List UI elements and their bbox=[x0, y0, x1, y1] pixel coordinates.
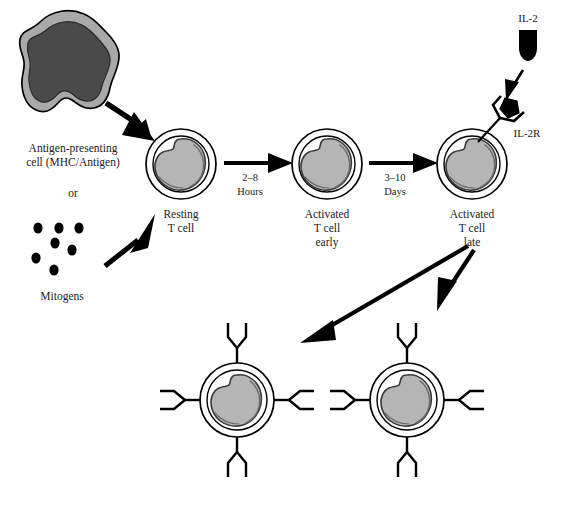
activated-early-label-line2: T cell bbox=[314, 222, 340, 234]
arrow-activated-early-to-late bbox=[369, 153, 438, 173]
apc-label-line1: Antigen-presenting bbox=[29, 142, 118, 155]
daughter-left-receptor-right bbox=[274, 391, 314, 409]
il2-cytokine-icon bbox=[519, 30, 537, 61]
diagram-canvas: Antigen-presenting cell (MHC/Antigen) or… bbox=[0, 0, 569, 512]
il2-bound-ligand bbox=[500, 98, 519, 118]
apc-label-line2: cell (MHC/Antigen) bbox=[26, 156, 120, 169]
arrow-il2-to-il2r bbox=[505, 70, 523, 101]
daughter-left-receptor-bottom bbox=[228, 437, 246, 477]
mitogen-dot bbox=[49, 264, 58, 275]
time-label-1-line1: 2–8 bbox=[242, 172, 258, 183]
mitogen-dot bbox=[67, 244, 76, 255]
resting-tcell-label-line2: T cell bbox=[168, 222, 194, 234]
activated-early-t-cell bbox=[292, 129, 362, 199]
time-label-2-line1: 3–10 bbox=[385, 172, 406, 183]
daughter-right-receptor-bottom bbox=[398, 437, 416, 477]
or-label: or bbox=[68, 187, 78, 199]
activated-early-label-line3: early bbox=[316, 236, 339, 249]
mitogen-dots-group bbox=[31, 222, 83, 275]
time-label-2-line2: Days bbox=[384, 186, 406, 197]
arrow-apc-to-resting-tcell bbox=[106, 103, 155, 141]
daughter-left-receptor-top bbox=[228, 323, 246, 363]
daughter-right-receptor-left bbox=[330, 391, 370, 409]
arrow-resting-to-activated-early bbox=[224, 153, 293, 173]
daughter-right-receptor-top bbox=[398, 323, 416, 363]
mitogen-dot bbox=[33, 222, 42, 233]
mitogens-label: Mitogens bbox=[40, 290, 84, 303]
activated-late-t-cell bbox=[437, 129, 507, 199]
activated-late-label-line1: Activated bbox=[450, 208, 495, 220]
mitogen-dot bbox=[50, 237, 59, 248]
resting-tcell-label-line1: Resting bbox=[163, 208, 198, 221]
il2r-label: IL-2R bbox=[514, 127, 542, 139]
activated-late-label-line2: T cell bbox=[459, 222, 485, 234]
activated-early-label-line1: Activated bbox=[305, 208, 350, 220]
daughter-cell-left bbox=[160, 323, 314, 477]
time-label-1-line2: Hours bbox=[237, 186, 263, 197]
arrow-mitogens-to-resting-tcell bbox=[105, 214, 155, 266]
mitogen-dot bbox=[74, 222, 83, 233]
daughter-left-receptor-left bbox=[160, 391, 200, 409]
daughter-right-receptor-right bbox=[444, 391, 484, 409]
antigen-presenting-cell bbox=[20, 11, 120, 112]
mitogen-dot bbox=[54, 222, 63, 233]
daughter-cell-right bbox=[330, 323, 484, 477]
t-cell-activation-figure: Antigen-presenting cell (MHC/Antigen) or… bbox=[0, 0, 569, 512]
il2-label: IL-2 bbox=[518, 12, 538, 24]
mitogen-dot bbox=[31, 252, 40, 263]
resting-t-cell bbox=[146, 129, 216, 199]
